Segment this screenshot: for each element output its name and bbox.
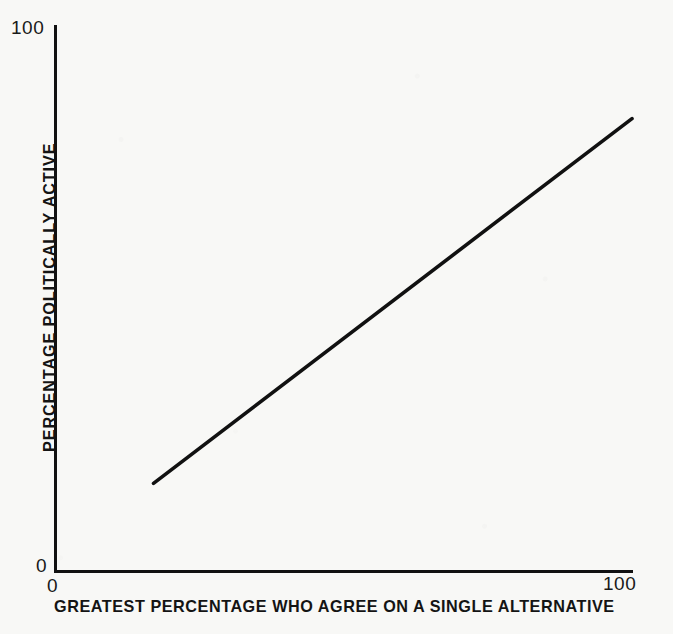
x-axis-tick-label-max: 100 <box>603 574 636 593</box>
chart-figure: 100 0 0 100 PERCENTAGE POLITICALLY ACTIV… <box>0 0 673 634</box>
y-axis-tick-label-min: 0 <box>36 556 47 575</box>
x-axis-title: GREATEST PERCENTAGE WHO AGREE ON A SINGL… <box>54 598 615 614</box>
y-axis-tick-label-max: 100 <box>11 18 44 37</box>
data-series-line <box>154 119 633 484</box>
x-axis-line <box>54 570 633 573</box>
x-axis-tick-label-min: 0 <box>47 576 58 595</box>
y-axis-title: PERCENTAGE POLITICALLY ACTIVE <box>41 143 57 452</box>
plot-area <box>0 0 673 634</box>
